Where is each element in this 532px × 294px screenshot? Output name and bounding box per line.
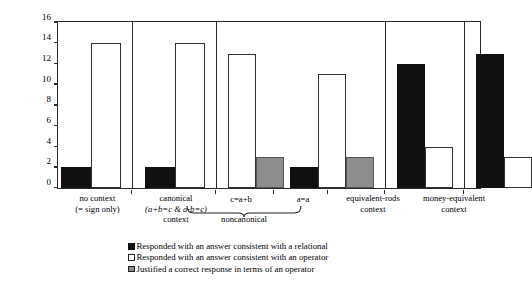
x-label-money-equivalent: money-equivalent context xyxy=(408,193,500,214)
bar-operator-canonical xyxy=(175,43,205,188)
tick-mark xyxy=(54,83,59,84)
black-square-icon xyxy=(128,243,135,250)
bar-relational-money-equivalent xyxy=(476,54,504,189)
chart-legend: Responded with an answer consistent with… xyxy=(128,241,328,275)
bar-operator-no-context xyxy=(91,43,121,188)
tick-mark xyxy=(54,42,59,43)
tick-mark xyxy=(54,166,59,167)
white-square-icon xyxy=(128,254,135,261)
bar-operator-a-equals-a xyxy=(318,74,346,188)
supergroup-label: noncanonical xyxy=(186,214,302,224)
plot-area: 16 14 12 10 8 6 4 2 0 xyxy=(57,21,481,189)
bar-relational-no-context xyxy=(61,167,91,188)
group-separator xyxy=(385,22,386,188)
x-label-equivalent-rods: equivalent-rods context xyxy=(331,193,415,214)
bar-operator-c-equals-a-plus-b xyxy=(228,54,256,189)
tick-mark xyxy=(54,125,59,126)
group-separator xyxy=(464,22,465,188)
bar-operator-equivalent-rods xyxy=(425,147,453,188)
x-label-line: context xyxy=(408,204,500,215)
bar-relational-a-equals-a xyxy=(290,167,318,188)
x-label-no-context: no context (= sign only) xyxy=(60,193,135,214)
x-label-line: equivalent-rods xyxy=(331,193,415,204)
legend-item-justified: Justified a correct response in terms of… xyxy=(128,264,328,275)
group-separator xyxy=(216,22,217,188)
x-label-line: context xyxy=(331,204,415,215)
bar-relational-canonical xyxy=(145,167,175,188)
gray-square-icon xyxy=(128,266,135,273)
x-label-line: no context xyxy=(60,193,135,204)
tick-mark xyxy=(54,104,59,105)
legend-item-operator: Responded with an answer consistent with… xyxy=(128,252,328,263)
bar-justified-c-equals-a-plus-b xyxy=(256,157,284,188)
legend-item-relational: Responded with an answer consistent with… xyxy=(128,241,328,252)
x-label-line: (= sign only) xyxy=(60,204,135,215)
legend-label: Justified a correct response in terms of… xyxy=(137,264,315,274)
tick-mark xyxy=(54,63,59,64)
tick-mark xyxy=(54,187,59,188)
bar-operator-money-equivalent xyxy=(504,157,532,188)
tick-mark xyxy=(54,21,59,22)
legend-label: Responded with an answer consistent with… xyxy=(137,241,328,251)
x-label-line: money-equivalent xyxy=(408,193,500,204)
bar-justified-a-equals-a xyxy=(346,157,374,188)
bar-relational-equivalent-rods xyxy=(397,64,425,188)
group-separator xyxy=(132,22,133,188)
legend-label: Responded with an answer consistent with… xyxy=(137,252,329,262)
tick-mark xyxy=(54,146,59,147)
